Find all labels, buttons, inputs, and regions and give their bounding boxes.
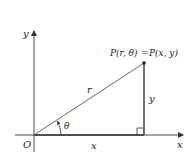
theta-label: θ xyxy=(64,121,70,131)
diagram-svg: y x O P(r, θ) = P(x, y) r y x θ xyxy=(0,0,195,159)
origin-label: O xyxy=(23,139,31,150)
point-label-cartesian: P(x, y) xyxy=(148,48,178,58)
right-angle-marker xyxy=(137,128,144,135)
horizontal-x-label: x xyxy=(91,140,97,151)
point-label-equals: = xyxy=(141,48,149,58)
angle-arc xyxy=(58,122,62,136)
point-label-polar: P(r, θ) xyxy=(109,48,138,58)
x-axis-label: x xyxy=(177,139,183,150)
point-p xyxy=(142,61,146,65)
r-label: r xyxy=(87,84,93,95)
y-axis-label: y xyxy=(22,28,29,39)
r-segment xyxy=(34,63,144,135)
vertical-y-label: y xyxy=(148,93,155,104)
polar-coordinates-diagram: y x O P(r, θ) = P(x, y) r y x θ xyxy=(0,0,195,159)
